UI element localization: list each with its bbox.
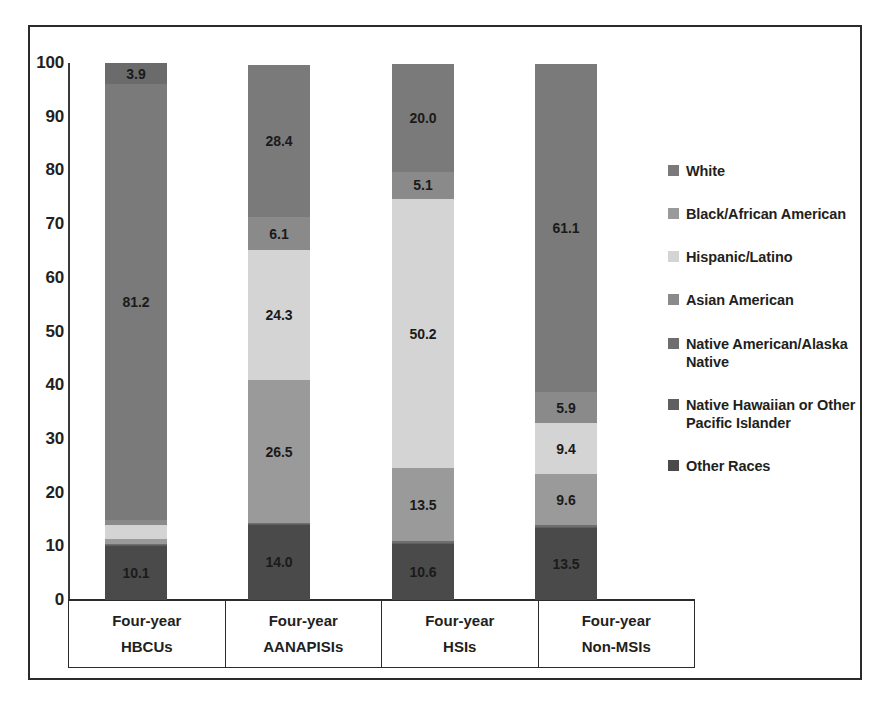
segment-value-label: 13.5 — [552, 557, 579, 571]
segment-native-american-alaska-native[interactable] — [105, 544, 167, 545]
segment-value-label: 10.6 — [409, 565, 436, 579]
y-tick-50: 50 — [22, 322, 64, 342]
x-category-cell-aanapisis: Four-yearAANAPISIs — [226, 600, 383, 667]
segment-value-label: 14.0 — [265, 555, 292, 569]
x-category-line-2: HSIs — [443, 639, 476, 656]
segment-native-hawaiian-or-other-pacific-islander[interactable] — [535, 527, 597, 528]
legend-label: Black/African American — [686, 205, 846, 223]
y-tick-10: 10 — [22, 536, 64, 556]
segment-other-races[interactable]: 10.1 — [105, 546, 167, 600]
y-tick-20: 20 — [22, 483, 64, 503]
segment-native-american-alaska-native[interactable] — [535, 525, 597, 527]
legend-swatch-icon — [668, 338, 679, 349]
segment-value-label: 50.2 — [409, 327, 436, 341]
plot-area: 1009080706050403020100 10.181.23.914.026… — [0, 0, 888, 702]
segment-value-label: 13.5 — [409, 498, 436, 512]
segment-value-label: 9.6 — [556, 493, 575, 507]
legend-label: Other Races — [686, 457, 770, 475]
segment-value-label: 3.9 — [126, 67, 145, 81]
legend-swatch-icon — [668, 165, 679, 176]
segment-top-other[interactable]: 3.9 — [105, 63, 167, 84]
bar-four-year-hbcus[interactable]: 10.181.23.9 — [105, 63, 167, 600]
segment-black-african-american[interactable]: 13.5 — [392, 468, 454, 540]
segment-asian-american[interactable]: 5.1 — [392, 172, 454, 199]
segment-hispanic-latino[interactable] — [105, 525, 167, 539]
legend-item-other-races[interactable]: Other Races — [668, 457, 868, 475]
segment-white[interactable]: 81.2 — [105, 84, 167, 520]
legend-item-native-hawaiian-or-other-pacific-islander[interactable]: Native Hawaiian or Other Pacific Islande… — [668, 396, 868, 432]
bar-four-year-hsis[interactable]: 10.613.550.25.120.0 — [392, 64, 454, 600]
x-category-cell-hbcus: Four-yearHBCUs — [69, 600, 226, 667]
legend-label: Hispanic/Latino — [686, 248, 792, 266]
segment-hispanic-latino[interactable]: 9.4 — [535, 423, 597, 473]
segment-other-races[interactable]: 10.6 — [392, 543, 454, 600]
chart-legend: WhiteBlack/African AmericanHispanic/Lati… — [668, 162, 868, 500]
legend-item-black-african-american[interactable]: Black/African American — [668, 205, 868, 223]
segment-value-label: 24.3 — [265, 308, 292, 322]
legend-swatch-icon — [668, 251, 679, 262]
x-category-line-1: Four-year — [582, 613, 651, 630]
segment-asian-american[interactable] — [105, 520, 167, 525]
y-tick-0: 0 — [22, 590, 64, 610]
y-tick-90: 90 — [22, 107, 64, 127]
legend-swatch-icon — [668, 460, 679, 471]
x-category-line-1: Four-year — [112, 613, 181, 630]
segment-other-races[interactable]: 14.0 — [248, 525, 310, 600]
legend-label: Native American/Alaska Native — [686, 335, 868, 371]
legend-swatch-icon — [668, 294, 679, 305]
segment-native-hawaiian-or-other-pacific-islander[interactable] — [105, 545, 167, 546]
y-tick-70: 70 — [22, 214, 64, 234]
segment-value-label: 26.5 — [265, 445, 292, 459]
legend-item-white[interactable]: White — [668, 162, 868, 180]
chart-page: 1009080706050403020100 10.181.23.914.026… — [0, 0, 888, 702]
x-category-line-1: Four-year — [269, 613, 338, 630]
segment-white[interactable]: 20.0 — [392, 64, 454, 171]
segment-value-label: 5.1 — [413, 178, 432, 192]
segment-hispanic-latino[interactable]: 50.2 — [392, 199, 454, 469]
x-category-line-1: Four-year — [425, 613, 494, 630]
segment-value-label: 81.2 — [122, 295, 149, 309]
legend-swatch-icon — [668, 399, 679, 410]
segment-value-label: 6.1 — [269, 227, 288, 241]
x-category-line-2: Non-MSIs — [582, 639, 651, 656]
segment-native-hawaiian-or-other-pacific-islander[interactable] — [392, 543, 454, 544]
x-category-line-2: HBCUs — [121, 639, 173, 656]
segment-value-label: 28.4 — [265, 134, 292, 148]
segment-native-hawaiian-or-other-pacific-islander[interactable] — [248, 524, 310, 525]
legend-label: White — [686, 162, 725, 180]
legend-item-asian-american[interactable]: Asian American — [668, 291, 868, 309]
segment-native-american-alaska-native[interactable] — [392, 541, 454, 543]
segment-value-label: 61.1 — [552, 221, 579, 235]
legend-item-hispanic-latino[interactable]: Hispanic/Latino — [668, 248, 868, 266]
y-tick-40: 40 — [22, 375, 64, 395]
segment-value-label: 20.0 — [409, 111, 436, 125]
bar-four-year-aanapisis[interactable]: 14.026.524.36.128.4 — [248, 65, 310, 600]
y-tick-100: 100 — [22, 53, 64, 73]
x-category-line-2: AANAPISIs — [263, 639, 343, 656]
y-axis-line — [68, 63, 70, 600]
x-axis-category-table: Four-yearHBCUsFour-yearAANAPISIsFour-yea… — [68, 600, 695, 668]
segment-white[interactable]: 61.1 — [535, 64, 597, 392]
segment-value-label: 10.1 — [122, 566, 149, 580]
legend-item-native-american-alaska-native[interactable]: Native American/Alaska Native — [668, 335, 868, 371]
x-category-cell-hsis: Four-yearHSIs — [382, 600, 539, 667]
legend-label: Asian American — [686, 291, 794, 309]
segment-other-races[interactable]: 13.5 — [535, 528, 597, 600]
segment-hispanic-latino[interactable]: 24.3 — [248, 250, 310, 380]
segment-asian-american[interactable]: 5.9 — [535, 392, 597, 424]
segment-black-african-american[interactable]: 9.6 — [535, 474, 597, 526]
segment-black-african-american[interactable]: 26.5 — [248, 380, 310, 522]
y-tick-80: 80 — [22, 160, 64, 180]
segment-black-african-american[interactable] — [105, 539, 167, 544]
legend-label: Native Hawaiian or Other Pacific Islande… — [686, 396, 868, 432]
segment-native-american-alaska-native[interactable] — [248, 523, 310, 525]
bar-four-year-non-msis[interactable]: 13.59.69.45.961.1 — [535, 64, 597, 600]
x-category-cell-non-msis: Four-yearNon-MSIs — [539, 600, 695, 667]
segment-value-label: 9.4 — [556, 442, 575, 456]
segment-asian-american[interactable]: 6.1 — [248, 217, 310, 250]
segment-value-label: 5.9 — [556, 401, 575, 415]
y-tick-30: 30 — [22, 429, 64, 449]
y-tick-60: 60 — [22, 268, 64, 288]
legend-swatch-icon — [668, 208, 679, 219]
segment-white[interactable]: 28.4 — [248, 65, 310, 218]
